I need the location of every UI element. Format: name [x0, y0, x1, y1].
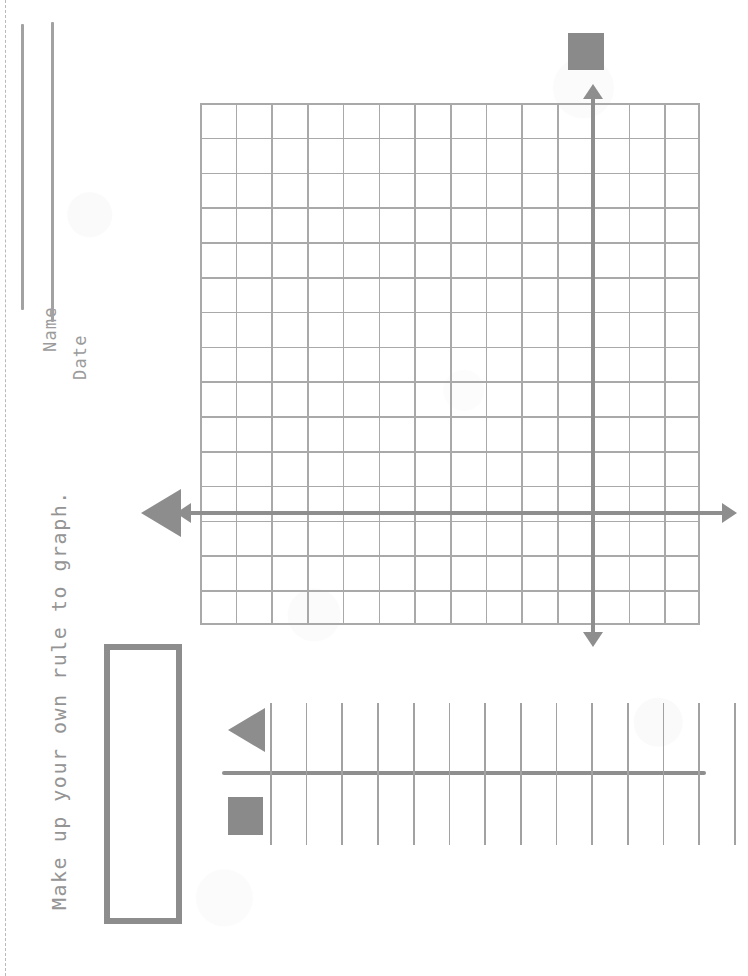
- y-axis-up-arrow-icon: [583, 84, 603, 99]
- answer-box[interactable]: [104, 644, 182, 924]
- x-axis: [178, 511, 730, 515]
- worksheet-page: Name Date Make up your own rule to graph…: [0, 0, 748, 976]
- number-line-tick: [449, 703, 451, 845]
- name-label: Name: [40, 306, 60, 352]
- y-axis-down-arrow-icon: [583, 632, 603, 647]
- number-line-tick: [520, 703, 522, 845]
- name-writing-line[interactable]: [21, 24, 24, 310]
- instruction-text: Make up your own rule to graph.: [47, 490, 71, 910]
- date-writing-line[interactable]: [51, 22, 54, 322]
- number-line-square-marker-icon: [228, 797, 263, 835]
- number-line-triangle-marker-icon: [228, 708, 265, 752]
- number-line-tick: [698, 703, 700, 845]
- coordinate-grid[interactable]: [200, 103, 700, 625]
- number-line-tick: [591, 703, 593, 845]
- fold-dashed-line: [5, 0, 6, 976]
- number-line-tick: [663, 703, 665, 845]
- grid-edge-right: [698, 103, 700, 625]
- number-line-tick: [413, 703, 415, 845]
- date-label: Date: [70, 334, 90, 380]
- y-axis: [591, 95, 595, 643]
- grid-triangle-marker-icon: [141, 489, 181, 537]
- number-line-axis: [222, 771, 706, 775]
- grid-edge-bottom: [200, 623, 700, 625]
- number-line-tick: [627, 703, 629, 845]
- number-line-tick: [556, 703, 558, 845]
- number-line-tick: [484, 703, 486, 845]
- x-axis-right-arrow-icon: [722, 503, 737, 523]
- grid-lines: [200, 103, 700, 625]
- grid-square-marker-icon: [568, 33, 604, 70]
- number-line-tick: [377, 703, 379, 845]
- number-line-tick: [734, 703, 736, 845]
- number-line-tick: [341, 703, 343, 845]
- number-line-tick: [270, 703, 272, 845]
- number-line-tick: [306, 703, 308, 845]
